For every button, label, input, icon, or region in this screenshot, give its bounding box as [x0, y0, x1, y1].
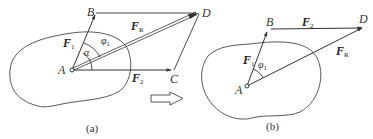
label-A-b: A	[234, 83, 243, 97]
panel-a: A B C D F1 F2 FR α φ1 (a)	[10, 5, 211, 135]
label-alpha: α	[84, 47, 90, 58]
label-FR-b: FR	[335, 44, 349, 59]
label-phi1-a: φ1	[101, 35, 111, 48]
label-A-a: A	[57, 63, 66, 77]
vector-F2-b	[271, 28, 362, 29]
panel-b: A B D F1 F2 FR φ1 (b)	[202, 12, 368, 133]
angle-phi1-arc-b	[253, 69, 263, 78]
label-phi1-b: φ1	[258, 59, 268, 72]
label-B-a: B	[87, 5, 95, 19]
force-parallelogram-figure: A B C D F1 F2 FR α φ1 (a)	[0, 0, 373, 139]
point-A-pin-b	[245, 84, 249, 88]
label-FR-a: FR	[130, 19, 144, 34]
label-B-b: B	[266, 15, 274, 29]
label-F2-a: F2	[131, 71, 144, 86]
caption-b: (b)	[266, 120, 279, 133]
label-C-a: C	[170, 72, 179, 86]
label-F2-b: F2	[301, 15, 314, 30]
hollow-right-arrow-icon	[151, 92, 183, 105]
side-CD	[174, 14, 199, 70]
caption-a: (a)	[86, 122, 99, 135]
rigid-body-outline-b	[202, 42, 321, 119]
label-D-b: D	[358, 12, 368, 26]
point-A-pin-a	[70, 68, 74, 72]
label-F1-a: F1	[62, 36, 75, 51]
label-D-a: D	[201, 6, 211, 20]
label-F1-b: F1	[242, 53, 255, 68]
